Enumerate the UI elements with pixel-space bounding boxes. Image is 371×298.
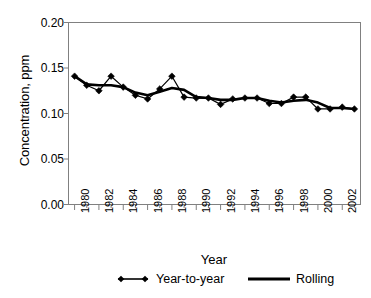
legend-swatch-icon <box>115 273 151 285</box>
x-axis-tick-label: 1990 <box>201 188 212 212</box>
legend-label: Year-to-year <box>156 272 224 286</box>
x-axis-title: Year <box>68 252 360 267</box>
x-axis-tick-label: 1982 <box>104 188 115 212</box>
x-axis-tick-label: 1992 <box>226 188 237 212</box>
x-axis-tick-label: 1986 <box>153 188 164 212</box>
legend-swatch-icon <box>247 273 291 285</box>
x-axis-tick-label: 1988 <box>177 188 188 212</box>
x-axis-tick-label: 2000 <box>323 188 334 212</box>
x-axis-tick-label: 1996 <box>274 188 285 212</box>
x-axis-tick-label: 1994 <box>250 188 261 212</box>
x-axis-tick-label: 1984 <box>128 188 139 212</box>
legend-item-year-to-year: Year-to-year <box>115 272 224 286</box>
x-axis-tick-label: 1998 <box>299 188 310 212</box>
legend-label: Rolling <box>296 272 334 286</box>
chart-legend: Year-to-yearRolling <box>0 270 371 294</box>
chart-figure: Concentration, ppm 0.000.050.100.150.20 … <box>0 0 371 298</box>
x-axis-tick-label: 1980 <box>80 188 91 212</box>
legend-item-rolling: Rolling <box>247 272 334 286</box>
x-axis-tick-label: 2002 <box>347 188 358 212</box>
